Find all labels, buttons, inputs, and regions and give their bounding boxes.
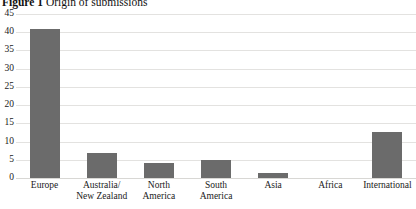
x-axis-label: International [359,180,416,191]
bar-slot [187,14,244,178]
x-axis-label: SouthAmerica [187,180,244,202]
x-axis-label-line: America [187,191,244,202]
x-axis-label-line: North [130,180,187,191]
x-axis-label-line: Africa [302,180,359,191]
x-axis-label-line: New Zealand [73,191,130,202]
x-axis-label: Australia/New Zealand [73,180,130,202]
y-axis-tick-45: 45 [0,9,14,19]
bar [87,153,117,179]
bar-slot [245,14,302,178]
bar [30,29,60,178]
bar-slot [130,14,187,178]
y-axis-tick-40: 40 [0,27,14,37]
x-axis-labels: EuropeAustralia/New ZealandNorthAmericaS… [16,180,416,209]
y-axis-tick-10: 10 [0,137,14,147]
bar-slot [16,14,73,178]
x-axis-label-line: Europe [16,180,73,191]
figure-container: Figure 1 Origin of submissions EuropeAus… [0,0,416,209]
y-axis-tick-30: 30 [0,64,14,74]
y-axis-tick-15: 15 [0,118,14,128]
bar [258,173,288,178]
y-axis-tick-0: 0 [0,173,14,183]
y-axis-tick-25: 25 [0,82,14,92]
x-axis-label-line: America [130,191,187,202]
y-axis-tick-5: 5 [0,155,14,165]
gridline-0 [16,178,416,179]
x-axis-label-line: International [359,180,416,191]
figure-title: Figure 1 Origin of submissions [2,0,147,9]
bar [372,132,402,178]
figure-title-text: Origin of submissions [46,0,148,8]
x-axis-label-line: Australia/ [73,180,130,191]
bar [144,163,174,178]
figure-number: Figure 1 [2,0,43,8]
x-axis-label: Africa [302,180,359,191]
bars-layer [16,14,416,178]
y-axis-tick-35: 35 [0,45,14,55]
bar-slot [302,14,359,178]
x-axis-label-line: Asia [245,180,302,191]
x-axis-label: Europe [16,180,73,191]
bar-slot [359,14,416,178]
x-axis-label-line: South [187,180,244,191]
bar [201,160,231,178]
y-axis-tick-20: 20 [0,100,14,110]
x-axis-label: NorthAmerica [130,180,187,202]
bar-slot [73,14,130,178]
x-axis-label: Asia [245,180,302,191]
